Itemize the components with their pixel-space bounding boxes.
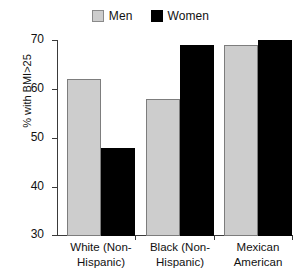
y-tick-label-60: 60 [31,81,44,95]
bar-chart: Men Women % with BMI>25 70 60 50 40 30 [0,0,301,279]
y-tick-label-70: 70 [31,32,44,46]
bar-women-mexican [258,40,292,236]
bar-women-black [180,45,214,236]
legend-label-women: Women [168,10,210,22]
y-tick-label-50: 50 [31,130,44,144]
chart-legend: Men Women [0,10,301,22]
bar-men-mexican [224,45,258,236]
bar-men-white [67,79,101,236]
x-axis-labels: White (Non- Hispanic) Black (Non- Hispan… [57,240,293,278]
bar-women-white [101,148,135,236]
y-tick-label-40: 40 [31,179,44,193]
legend-swatch-women-icon [151,10,163,22]
bars-layer [57,40,293,236]
bar-men-black [146,99,180,236]
legend-item-men: Men [92,10,133,22]
x-label-mexican-american: Mexican American [208,240,301,270]
x-label-mexican-line1: Mexican [208,240,301,255]
legend-label-men: Men [109,10,133,22]
legend-item-women: Women [151,10,210,22]
y-tick-label-30: 30 [31,227,44,241]
legend-swatch-men-icon [92,10,104,22]
plot-area: 70 60 50 40 30 [57,40,293,236]
x-label-mexican-line2: American [208,255,301,270]
